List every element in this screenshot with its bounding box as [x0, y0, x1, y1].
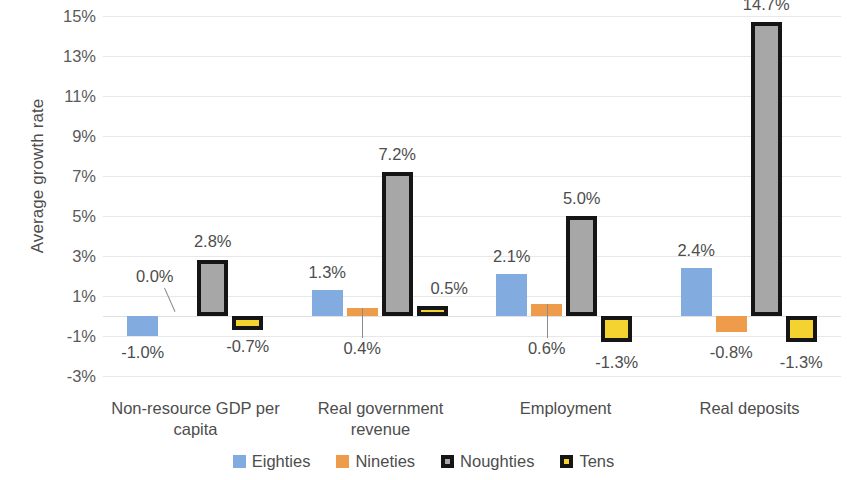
legend-swatch-tens: [560, 455, 573, 468]
y-axis-tick-label: 13%: [30, 48, 96, 65]
y-axis-tick-label: 1%: [30, 288, 96, 305]
gridline: [103, 56, 841, 57]
legend-item-nineties[interactable]: Nineties: [336, 452, 415, 471]
legend-item-eighties[interactable]: Eighties: [233, 452, 311, 471]
y-axis-tick-label: 15%: [30, 8, 96, 25]
y-axis-tick-label: 9%: [30, 128, 96, 145]
category-label: Real deposits: [658, 398, 841, 419]
legend-item-noughties[interactable]: Noughties: [441, 452, 534, 471]
gridline: [103, 376, 841, 377]
y-axis-tick-label: -3%: [30, 368, 96, 385]
bar-noughties-2[interactable]: [566, 216, 597, 316]
data-label: -1.0%: [108, 344, 178, 361]
y-axis-tick-label: 5%: [30, 208, 96, 225]
bar-tens-3[interactable]: [786, 316, 817, 342]
category-label-line1: Employment: [473, 398, 658, 419]
category-label: Real government revenue: [288, 398, 473, 440]
gridline: [103, 16, 841, 17]
leader-line: [164, 288, 175, 312]
bar-nineties-3[interactable]: [716, 316, 747, 332]
data-label: 2.8%: [178, 233, 248, 250]
bar-noughties-1[interactable]: [382, 172, 413, 316]
data-label: 5.0%: [547, 190, 617, 207]
category-label: Employment: [473, 398, 658, 419]
gridline: [103, 136, 841, 137]
bar-tens-1[interactable]: [417, 306, 448, 316]
x-axis-category-labels: Non-resource GDP per capita Real governm…: [103, 392, 841, 450]
legend-label: Noughties: [460, 452, 534, 471]
bar-chart: Average growth rate 15%13%11%9%7%5%3%1%-…: [0, 0, 847, 480]
bar-eighties-0[interactable]: [127, 316, 158, 336]
category-label: Non-resource GDP per capita: [103, 398, 288, 440]
category-label-line1: Real deposits: [658, 398, 841, 419]
legend-label: Eighties: [252, 452, 311, 471]
bar-eighties-1[interactable]: [312, 290, 343, 316]
bar-eighties-2[interactable]: [496, 274, 527, 316]
gridline: [103, 96, 841, 97]
legend-label: Nineties: [355, 452, 415, 471]
category-label-line2: capita: [103, 419, 288, 440]
legend-swatch-noughties: [441, 455, 454, 468]
category-label-line1: Non-resource GDP per: [103, 398, 288, 419]
bar-noughties-0[interactable]: [197, 260, 228, 316]
y-axis-tick-label: 11%: [30, 88, 96, 105]
legend-swatch-eighties: [233, 455, 246, 468]
bar-noughties-3[interactable]: [751, 22, 782, 316]
legend-label: Tens: [579, 452, 614, 471]
leader-line: [362, 308, 363, 338]
bar-tens-0[interactable]: [232, 316, 263, 330]
gridline: [103, 176, 841, 177]
category-label-line1: Real government: [288, 398, 473, 419]
legend-swatch-nineties: [336, 455, 349, 468]
data-label: 0.5%: [414, 280, 484, 297]
y-axis-tick-labels: 15%13%11%9%7%5%3%1%-1%-3%: [0, 0, 96, 480]
data-label: 0.0%: [120, 268, 190, 285]
data-label: 2.1%: [477, 248, 547, 265]
data-label: -1.3%: [766, 354, 836, 371]
gridline: [103, 336, 841, 337]
plot-area: -1.0%0.0%2.8%-0.7%1.3%0.4%7.2%0.5%2.1%0.…: [103, 0, 841, 385]
data-label: 0.4%: [327, 340, 397, 357]
data-label: 7.2%: [362, 146, 432, 163]
chart-legend: EightiesNinetiesNoughtiesTens: [0, 452, 847, 471]
leader-line: [547, 304, 548, 338]
bar-tens-2[interactable]: [601, 316, 632, 342]
legend-item-tens[interactable]: Tens: [560, 452, 614, 471]
data-label: 14.7%: [731, 0, 801, 13]
y-axis-tick-label: -1%: [30, 328, 96, 345]
category-label-line2: revenue: [288, 419, 473, 440]
data-label: -1.3%: [582, 354, 652, 371]
bar-eighties-3[interactable]: [681, 268, 712, 316]
gridline: [103, 216, 841, 217]
data-label: 1.3%: [292, 264, 362, 281]
y-axis-tick-label: 3%: [30, 248, 96, 265]
data-label: 0.6%: [512, 340, 582, 357]
data-label: -0.7%: [213, 338, 283, 355]
y-axis-tick-label: 7%: [30, 168, 96, 185]
data-label: 2.4%: [661, 242, 731, 259]
data-label: -0.8%: [696, 344, 766, 361]
